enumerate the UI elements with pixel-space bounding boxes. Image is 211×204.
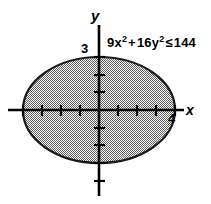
term-y-coefficient: 16y	[137, 35, 159, 50]
ellipse-inequality-figure: y x 3 4 9x2+16y2≤144	[0, 0, 211, 204]
x-axis-label: x	[186, 103, 194, 117]
coordinate-plane	[0, 0, 211, 204]
less-than-or-equal-operator: ≤	[164, 35, 173, 50]
constant-term: 144	[174, 35, 196, 50]
y-intercept-tick-label: 3	[81, 42, 88, 55]
x-intercept-tick-label: 4	[168, 112, 175, 125]
inequality-annotation: 9x2+16y2≤144	[107, 36, 196, 49]
term-x-coefficient: 9x	[107, 35, 122, 50]
y-axis-label: y	[91, 8, 99, 23]
plus-operator: +	[127, 35, 137, 50]
